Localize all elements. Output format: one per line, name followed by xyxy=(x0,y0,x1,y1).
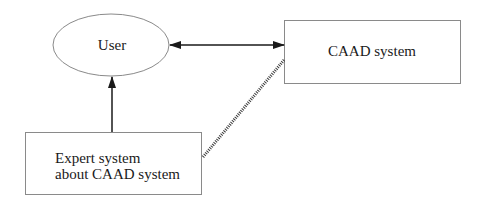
caad-system-label: CAAD system xyxy=(328,43,416,59)
user-label: User xyxy=(98,37,126,53)
node-user: User xyxy=(53,14,169,76)
node-caad-system: CAAD system xyxy=(285,21,461,84)
expert-system-label-line1: Expert system xyxy=(55,150,141,166)
diagram-canvas: User CAAD system Expert system about CAA… xyxy=(0,0,483,207)
edge-expert-caad-hatched xyxy=(203,60,284,157)
expert-system-label-line2: about CAAD system xyxy=(55,166,180,182)
node-expert-system: Expert system about CAAD system xyxy=(26,133,202,195)
